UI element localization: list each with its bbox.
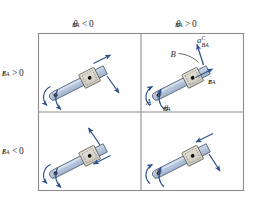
rod-collar-matrix-figure: θ̇BA<0 θ̇BA>0 ṙBA>0 ṙBA<0	[0, 0, 255, 204]
label-point-B: B	[171, 49, 177, 59]
header-label-right: θ̇BA>0	[175, 18, 197, 29]
column-header-theta-dot-negative: θ̇BA<0	[72, 18, 94, 29]
row-header-r-dot-positive: ṙBA>0	[2, 67, 24, 78]
row-label-top: ṙBA>0	[2, 67, 24, 78]
figure-container: θ̇BA<0 θ̇BA>0 ṙBA>0 ṙBA<0	[0, 0, 255, 204]
column-header-theta-dot-positive: θ̇BA>0	[175, 18, 197, 29]
row-label-bottom: ṙBA<0	[2, 145, 24, 156]
header-label-left: θ̇BA<0	[72, 18, 94, 29]
row-header-r-dot-negative: ṙBA<0	[2, 145, 24, 156]
label-point-A: A	[145, 97, 152, 107]
